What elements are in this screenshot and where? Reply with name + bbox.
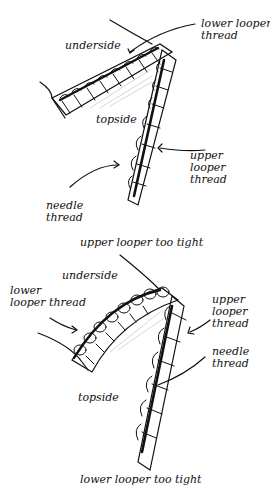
leader-line	[130, 24, 195, 52]
leader-line	[50, 318, 76, 330]
leader-line	[70, 165, 118, 187]
caption-top: upper looper too tight	[80, 236, 203, 249]
caption-bottom: lower looper too tight	[80, 473, 202, 486]
label-upper-looper-thread-bottom: upper looper thread	[212, 294, 249, 330]
label-needle-thread-top: needle thread	[46, 200, 83, 224]
label-topside-top: topside	[96, 114, 137, 126]
leader-line	[190, 320, 210, 332]
label-upper-looper-thread-top: upper looper thread	[190, 150, 227, 186]
label-needle-thread-bottom: needle thread	[212, 346, 249, 370]
label-lower-looper-thread-top: lower looper thread	[201, 18, 270, 42]
leader-line	[158, 357, 205, 385]
label-lower-looper-thread-bottom: lower looper thread	[10, 285, 86, 309]
fabric-edge-line	[120, 255, 160, 290]
label-topside-bottom: topside	[78, 392, 119, 404]
label-underside-bottom: underside	[62, 270, 118, 282]
label-underside-top: underside	[65, 40, 121, 52]
